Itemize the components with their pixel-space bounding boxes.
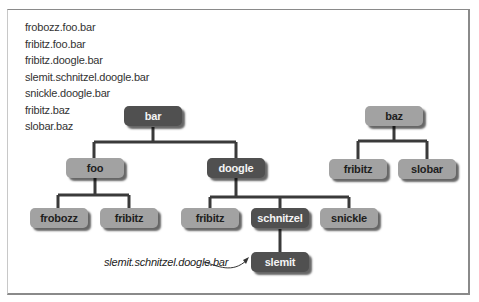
node-snickle: snickle — [320, 208, 378, 228]
node-slobar: slobar — [398, 159, 456, 179]
node-frobozz: frobozz — [30, 208, 88, 228]
node-schnitzel: schnitzel — [251, 208, 309, 228]
edge-foo-children — [58, 178, 129, 208]
annotation-label: slemit.schnitzel.doogle.bar — [104, 256, 228, 268]
node-baz: baz — [365, 106, 423, 126]
node-fribitz-doogle: fribitz — [181, 208, 239, 228]
node-bar: bar — [124, 106, 182, 126]
node-foo: foo — [66, 158, 124, 178]
node-slemit: slemit — [251, 252, 309, 272]
edge-baz-children — [358, 126, 427, 159]
node-doogle: doogle — [207, 158, 265, 178]
edge-bar-children — [94, 127, 236, 158]
node-fribitz-foo: fribitz — [100, 208, 158, 228]
tree-connectors — [0, 0, 479, 302]
node-fribitz-baz: fribitz — [329, 159, 387, 179]
edge-doogle-children — [210, 178, 349, 208]
